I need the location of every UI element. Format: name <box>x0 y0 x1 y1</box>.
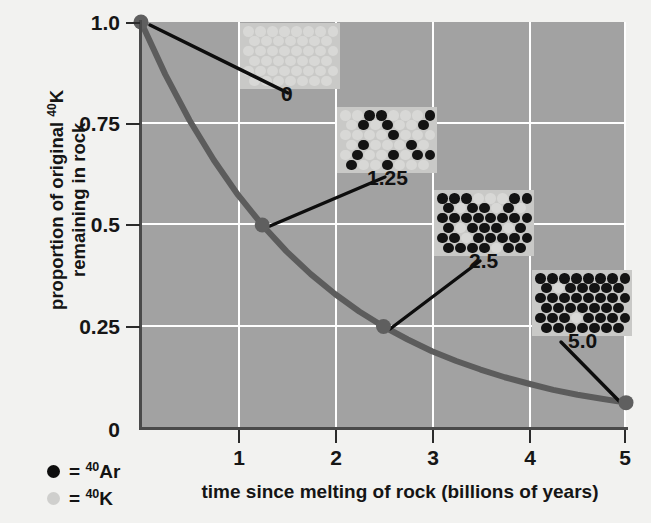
atom-k <box>249 36 260 47</box>
atom-ar <box>509 213 520 224</box>
atom-k <box>315 46 326 57</box>
inset-label-2.5: 2.5 <box>469 249 498 273</box>
atom-ar <box>485 233 496 244</box>
atom-k <box>455 223 466 234</box>
atom-k <box>394 140 405 151</box>
atom-k <box>364 150 375 161</box>
atom-ar <box>620 293 631 304</box>
x-axis-line <box>139 427 628 430</box>
atom-ar <box>497 213 508 224</box>
atom-ar <box>358 140 369 151</box>
gridline-y-0.5 <box>141 223 626 225</box>
atom-k <box>261 76 272 87</box>
atom-k <box>461 233 472 244</box>
atom-k <box>328 26 339 37</box>
atom-ar <box>541 283 552 294</box>
legend-ar-text: = 40Ar <box>69 461 120 483</box>
atom-ar <box>443 243 454 254</box>
atom-ar <box>509 233 520 244</box>
atom-ar <box>376 110 387 121</box>
atom-ar <box>437 213 448 224</box>
legend-k-superscript: 40 <box>85 486 99 500</box>
atom-ar <box>595 293 606 304</box>
x-tick-mark-3 <box>432 430 434 443</box>
atom-k <box>497 193 508 204</box>
atom-k <box>394 120 405 131</box>
atom-ar <box>515 223 526 234</box>
legend-item-ar: = 40Ar <box>47 458 120 485</box>
atom-ar <box>503 203 514 214</box>
atom-k <box>455 203 466 214</box>
atom-k <box>346 120 357 131</box>
atom-k <box>285 56 296 67</box>
atom-k <box>412 110 423 121</box>
atom-k <box>267 46 278 57</box>
atom-ar <box>449 213 460 224</box>
atom-k <box>261 36 272 47</box>
atom-ar <box>443 223 454 234</box>
atom-ar <box>467 223 478 234</box>
atom-ar <box>418 120 429 131</box>
legend-item-k: = 40K <box>47 485 120 512</box>
atom-k <box>249 56 260 67</box>
atom-ar <box>577 303 588 314</box>
atom-k <box>243 46 254 57</box>
atom-k <box>400 130 411 141</box>
atom-ar <box>522 233 533 244</box>
atom-k <box>273 56 284 67</box>
atom-ar <box>455 243 466 254</box>
legend-k-equals: = <box>69 488 80 509</box>
atom-k <box>364 130 375 141</box>
inset-atoms-1.25 <box>337 107 437 173</box>
y-axis-title-text-1: proportion of original <box>46 117 67 310</box>
atom-ar <box>491 223 502 234</box>
atom-ar <box>571 273 582 284</box>
y-axis-title: proportion of original 40K remaining in … <box>46 0 90 410</box>
atom-k <box>279 46 290 57</box>
atom-k <box>346 140 357 151</box>
atom-ar <box>559 273 570 284</box>
atom-k <box>315 66 326 77</box>
atom-ar <box>509 193 520 204</box>
legend-ar-superscript: 40 <box>85 459 99 473</box>
x-tick-label-1: 1 <box>224 446 254 470</box>
atom-k <box>328 66 339 77</box>
atom-ar <box>437 193 448 204</box>
atom-k <box>376 130 387 141</box>
atom-k <box>321 36 332 47</box>
atom-ar <box>595 273 606 284</box>
legend-ar-dot-icon <box>47 465 60 478</box>
atom-ar <box>479 223 490 234</box>
atom-ar <box>541 323 552 334</box>
inset-atoms-5.0 <box>532 270 632 336</box>
atom-k <box>418 160 429 171</box>
atom-ar <box>583 273 594 284</box>
atom-ar <box>601 323 612 334</box>
x-tick-label-3: 3 <box>418 446 448 470</box>
atom-ar <box>535 313 546 324</box>
atom-ar <box>485 213 496 224</box>
y-tick-mark-0.5 <box>126 224 140 226</box>
atom-k <box>328 46 339 57</box>
atom-ar <box>467 203 478 214</box>
atom-ar <box>613 303 624 314</box>
atom-k <box>303 66 314 77</box>
y-tick-mark-0.25 <box>126 326 140 328</box>
atom-ar <box>443 203 454 214</box>
atom-ar <box>473 233 484 244</box>
atom-k <box>340 130 351 141</box>
y-axis-title-superscript: 40 <box>45 103 59 117</box>
inset-atoms-2.5 <box>434 190 534 256</box>
atom-ar <box>479 203 490 214</box>
atom-ar <box>559 293 570 304</box>
atom-k <box>376 150 387 161</box>
atom-ar <box>607 273 618 284</box>
atom-ar <box>553 303 564 314</box>
atom-k <box>255 26 266 37</box>
atom-ar <box>620 273 631 284</box>
atom-ar <box>364 110 375 121</box>
atom-k <box>279 66 290 77</box>
atom-ar <box>601 283 612 294</box>
y-axis-title-line-2: remaining in rock <box>68 0 90 410</box>
atom-k <box>553 283 564 294</box>
